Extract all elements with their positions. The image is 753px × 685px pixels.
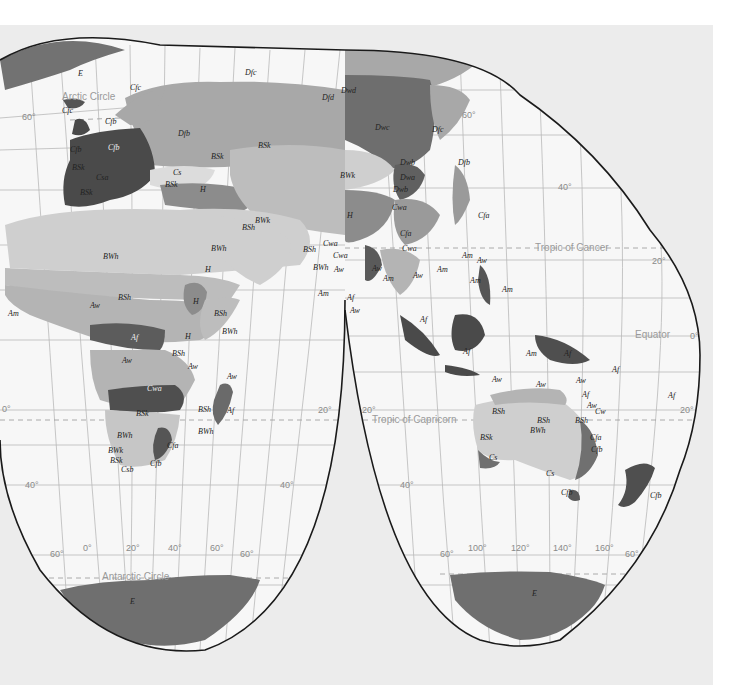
climate-label: Aw (121, 356, 132, 365)
climate-label: Cfa (167, 441, 179, 450)
lat-label: 60° (462, 110, 476, 120)
climate-label: BSh (537, 416, 550, 425)
climate-label: BWh (198, 427, 214, 436)
lon-label: 120° (511, 543, 530, 553)
lat-label: 20° (680, 405, 694, 415)
climate-label: Dwb (399, 158, 415, 167)
lat-label: 60° (50, 549, 64, 559)
climate-label: BSk (211, 152, 224, 161)
climate-label: BSh (214, 309, 227, 318)
climate-label: BSh (492, 407, 505, 416)
climate-label: Dfb (177, 129, 190, 138)
climate-label: BSh (172, 349, 185, 358)
climate-label: Am (382, 274, 394, 283)
lon-label: 140° (553, 543, 572, 553)
lon-label: 160° (595, 543, 614, 553)
climate-label: Cs (546, 469, 554, 478)
climate-label: Aw (476, 256, 487, 265)
lat-label: 40° (25, 480, 39, 490)
climate-label: BSk (80, 188, 93, 197)
tropic-capricorn-label: Tropic of Capricorn (372, 414, 457, 425)
climate-label: Aw (333, 265, 344, 274)
lat-label: 20° (362, 405, 376, 415)
climate-label: BWh (313, 263, 329, 272)
climate-label: Cfa (590, 433, 602, 442)
climate-label: Dfd (321, 93, 335, 102)
climate-label: Dfc (244, 68, 257, 77)
lat-label: 40° (400, 480, 414, 490)
climate-label: Csa (96, 173, 108, 182)
lat-label: 60° (440, 549, 454, 559)
climate-label: Aw (535, 380, 546, 389)
climate-label: Am (469, 276, 481, 285)
climate-label: BWk (255, 216, 271, 225)
climate-label: Cwa (392, 203, 407, 212)
climate-label: Am (501, 285, 513, 294)
climate-label: BSk (136, 409, 149, 418)
lat-label: 40° (280, 480, 294, 490)
climate-label: Csb (121, 465, 133, 474)
climate-label: BSh (575, 416, 588, 425)
climate-label: BSk (165, 180, 178, 189)
climate-label: Cfa (478, 211, 490, 220)
lon-label: 100° (468, 543, 487, 553)
lon-label: 60° (210, 543, 224, 553)
climate-label: BSh (303, 245, 316, 254)
climate-label: Cw (595, 407, 606, 416)
climate-label: Cfb (650, 491, 662, 500)
climate-label: Am (436, 265, 448, 274)
climate-label: Am (317, 289, 329, 298)
tropic-cancer-label: Tropic of Cancer (535, 242, 609, 253)
climate-label: BSk (72, 163, 85, 172)
lat-label: 20° (318, 405, 332, 415)
climate-label: Cfb (105, 117, 117, 126)
climate-label: Aw (226, 372, 237, 381)
climate-label: BSh (198, 405, 211, 414)
climate-label: Cfb (150, 459, 162, 468)
climate-label: Dwa (399, 173, 415, 182)
climate-label: Cfb (591, 445, 603, 454)
climate-label: BSk (258, 141, 271, 150)
climate-label: Aw (187, 362, 198, 371)
climate-label: BWk (340, 171, 356, 180)
climate-label: Dfb (457, 158, 470, 167)
climate-label: BWh (103, 252, 119, 261)
climate-label: Cfa (400, 229, 412, 238)
lon-label: 40° (168, 543, 182, 553)
climate-label: Cfb (108, 143, 120, 152)
lon-label: 20° (126, 543, 140, 553)
climate-label: BWh (211, 244, 227, 253)
climate-label: Aw (371, 264, 382, 273)
climate-map: Arctic Circle Tropic of Cancer Equator T… (0, 0, 753, 685)
climate-label: Cwa (333, 251, 348, 260)
climate-label: BWh (117, 431, 133, 440)
lat-label: 0° (690, 331, 699, 341)
climate-label: Aw (491, 375, 502, 384)
climate-label: Aw (575, 376, 586, 385)
climate-label: Am (7, 309, 19, 318)
antarctic-circle-label: Antarctic Circle (102, 571, 170, 582)
climate-label: Dwb (392, 185, 408, 194)
climate-label: Cfc (62, 106, 74, 115)
climate-label: Cs (489, 453, 497, 462)
climate-label: BSh (118, 293, 131, 302)
climate-label: Cs (173, 168, 181, 177)
climate-label: E (129, 597, 135, 606)
lat-label: 0° (2, 404, 11, 414)
climate-label: Am (461, 251, 473, 260)
climate-label: E (77, 69, 83, 78)
climate-label: Dwc (374, 123, 390, 132)
climate-label: E (531, 589, 537, 598)
climate-label: Cwa (402, 244, 417, 253)
climate-label: Cwa (323, 239, 338, 248)
climate-label: Cfc (130, 83, 142, 92)
lat-label: 40° (558, 182, 572, 192)
climate-label: Dfc (431, 125, 444, 134)
climate-label: Cwa (147, 384, 162, 393)
climate-label: BSk (110, 456, 123, 465)
climate-label: Cfb (70, 145, 82, 154)
climate-label: BSh (242, 223, 255, 232)
climate-label: BWh (222, 327, 238, 336)
climate-label: Aw (349, 306, 360, 315)
lat-label: 60° (625, 549, 639, 559)
